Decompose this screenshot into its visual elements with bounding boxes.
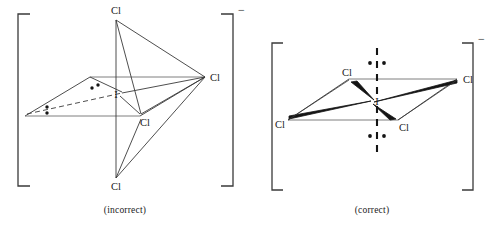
atom-label-cl-right-correct: Cl	[463, 74, 473, 85]
atom-label-cl-front-correct: Cl	[399, 122, 409, 133]
atom-label-cl-top-incorrect: Cl	[111, 5, 121, 16]
caption-incorrect: (incorrect)	[0, 205, 250, 215]
atom-label-i-center-incorrect: I	[114, 89, 118, 100]
incorrect-structure-drawing: Cl Cl Cl Cl I −	[0, 0, 250, 228]
charge-label-incorrect: −	[238, 3, 245, 17]
bracket-left-incorrect	[18, 14, 30, 186]
structure-panel-incorrect: Cl Cl Cl Cl I − (incorrect)	[0, 0, 250, 228]
atom-label-cl-left-correct: Cl	[275, 119, 285, 130]
structure-panel-correct: Cl Cl Cl Cl I − (correct)	[250, 0, 494, 228]
bonds-correct	[289, 80, 457, 120]
figure-root: Cl Cl Cl Cl I − (incorrect)	[0, 0, 494, 228]
atom-label-cl-right-incorrect: Cl	[210, 72, 220, 83]
atom-label-cl-bottom-incorrect: Cl	[111, 181, 121, 192]
atom-label-cl-front-incorrect: Cl	[140, 117, 150, 128]
caption-correct: (correct)	[250, 205, 494, 215]
lone-pair-upper-incorrect	[90, 83, 99, 89]
atom-label-i-center-correct: I	[375, 96, 379, 107]
correct-structure-drawing: Cl Cl Cl Cl I −	[250, 0, 494, 228]
hidden-bond-incorrect	[27, 93, 122, 114]
charge-label-correct: −	[478, 32, 485, 46]
outline-edges-incorrect	[90, 20, 205, 178]
bracket-right-correct	[462, 43, 473, 190]
atom-label-cl-back-left-correct: Cl	[342, 67, 352, 78]
bracket-left-correct	[272, 43, 283, 190]
bracket-right-incorrect	[221, 14, 233, 186]
